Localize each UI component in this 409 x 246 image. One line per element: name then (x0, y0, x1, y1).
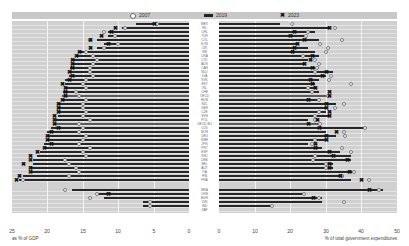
bar-2019-gdp (97, 39, 189, 42)
marker-2007-gdp (95, 192, 99, 196)
marker-2007-exp (317, 110, 321, 114)
marker-2007-exp (324, 50, 328, 54)
marker-2007-exp (333, 26, 337, 30)
marker-2007-gdp (81, 138, 85, 142)
bar-2019-exp (219, 197, 322, 200)
x-tick-right: 20 (287, 228, 293, 234)
bar-2019-exp (219, 189, 383, 192)
marker-2023-exp: ✖ (327, 93, 332, 99)
marker-2007-gdp (67, 162, 71, 166)
bar-2019-gdp (97, 193, 189, 196)
bar-2019-exp (219, 175, 344, 178)
bar-2019-gdp (47, 135, 189, 138)
bar-2019-exp (219, 193, 304, 196)
marker-2007-exp (349, 82, 353, 86)
row-separator (12, 211, 189, 212)
bar-2019-gdp (58, 111, 189, 114)
marker-2007-gdp (102, 46, 106, 50)
bar-2019-gdp (108, 35, 189, 38)
x-tick-right: 40 (358, 228, 364, 234)
marker-2007-exp (340, 38, 344, 42)
bar-2019-exp (219, 167, 333, 170)
bar-2019-exp (219, 79, 319, 82)
bar-2019-exp (219, 63, 304, 66)
marker-2023-exp: ✖ (345, 157, 350, 163)
bar-2019-exp (219, 127, 365, 130)
x-tick-left: 10 (115, 228, 121, 234)
bar-2019-gdp (23, 175, 189, 178)
right-axis-title: % of total government expenditures (325, 236, 397, 241)
left-axis-title: as % of GDP (12, 236, 39, 241)
bar-2019-gdp (33, 163, 189, 166)
bar-2019-gdp (19, 179, 189, 182)
bar-2019-exp (219, 119, 308, 122)
marker-2023-exp: ✖ (308, 57, 313, 63)
bar-2019-gdp (69, 75, 189, 78)
bar-2019-gdp (63, 91, 189, 94)
bar-2019-gdp (72, 189, 189, 192)
bar-2019-gdp (30, 167, 189, 170)
marker-2007-gdp (81, 126, 85, 130)
bar-2019-gdp (30, 171, 189, 174)
bar-2019-exp (219, 147, 322, 150)
bar-2019-exp (219, 123, 319, 126)
x-tick-right: 30 (323, 228, 329, 234)
marker-2007-gdp (21, 178, 25, 182)
marker-2023-gdp: ✖ (14, 177, 19, 183)
x-tick-right: 0 (218, 228, 221, 234)
marker-2007-exp (367, 178, 371, 182)
row-separator (12, 181, 189, 182)
bar-2019-gdp (136, 23, 189, 26)
chart-plot-area: MEX✖IRL✖✖CHL✖✖TUR✖✖COL✖✖KOR✖✖CRI✖✖ISR✖✖U… (0, 0, 409, 246)
bar-2019-exp (219, 131, 326, 134)
marker-2007-gdp (88, 196, 92, 200)
x-tick-left: 25 (9, 228, 15, 234)
row-separator (219, 207, 397, 208)
marker-2007-exp (363, 126, 367, 130)
bar-2019-exp (219, 51, 315, 54)
bar-2019-gdp (104, 197, 189, 200)
marker-2007-exp (349, 150, 353, 154)
bar-2019-gdp (47, 139, 189, 142)
bar-2019-gdp (33, 159, 189, 162)
bar-2019-gdp (56, 119, 189, 122)
marker-2023-exp: ✖ (327, 113, 332, 119)
marker-2023-gdp: ✖ (88, 37, 93, 43)
bar-2019-gdp (58, 103, 189, 106)
bar-2019-gdp (72, 59, 189, 62)
bar-2019-gdp (37, 155, 189, 158)
marker-2007-exp (340, 146, 344, 150)
bar-2019-gdp (40, 151, 189, 154)
bar-2019-gdp (122, 27, 189, 30)
bar-2019-exp (219, 107, 326, 110)
marker-2023-exp: ✖ (359, 177, 364, 183)
bar-2019-exp (219, 59, 308, 62)
bar-2019-gdp (44, 143, 189, 146)
bar-2019-exp (219, 99, 317, 102)
row-separator (219, 181, 397, 182)
marker-2023-exp: ✖ (327, 25, 332, 31)
bar-2019-exp (219, 163, 333, 166)
row-separator (12, 207, 189, 208)
marker-2007-exp (290, 22, 294, 26)
marker-2007-gdp (88, 146, 92, 150)
marker-2007-gdp (81, 114, 85, 118)
marker-2023-exp: ✖ (320, 73, 325, 79)
marker-2007-exp (342, 102, 346, 106)
marker-2007-gdp (113, 34, 117, 38)
bar-2019-exp (219, 111, 326, 114)
marker-2023-gdp: ✖ (28, 157, 33, 163)
gridline-right (361, 21, 362, 213)
marker-2007-exp (317, 196, 321, 200)
bar-2019-gdp (97, 47, 189, 50)
marker-2007-exp (342, 200, 346, 204)
bar-2019-exp (219, 171, 354, 174)
x-tick-left: 20 (44, 228, 50, 234)
x-tick-right: 10 (252, 228, 258, 234)
country-label: ZAF (190, 208, 219, 212)
bar-2019-exp (219, 139, 326, 142)
bar-2019-exp (219, 135, 336, 138)
bar-2019-gdp (51, 127, 189, 130)
bar-2019-gdp (54, 123, 189, 126)
bar-2019-gdp (79, 51, 189, 54)
